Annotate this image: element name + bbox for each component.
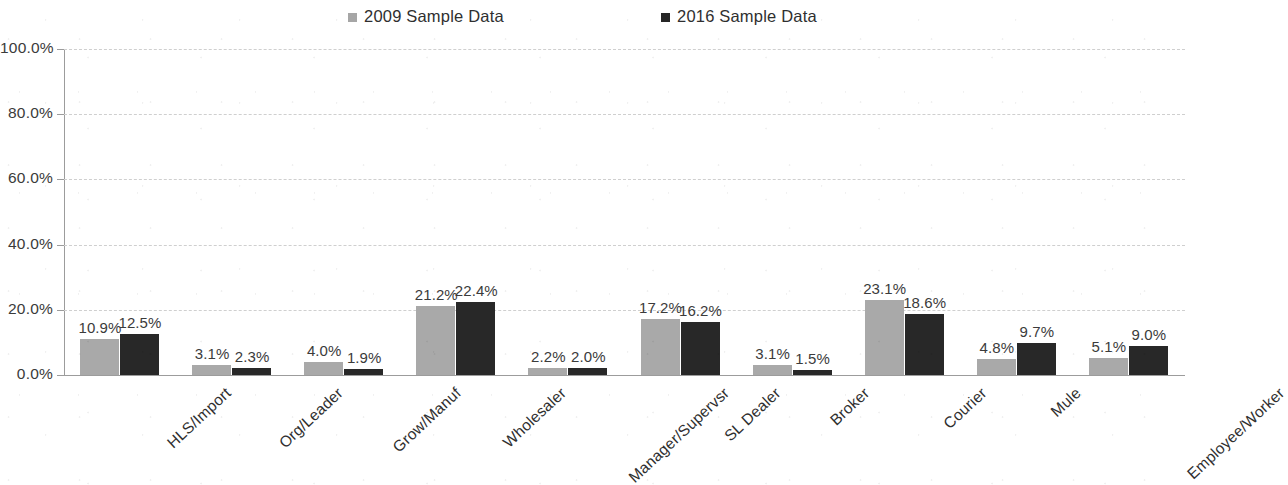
x-axis-category-label: Org/Leader xyxy=(275,384,346,452)
bar[interactable] xyxy=(528,368,567,375)
bar[interactable] xyxy=(1089,358,1128,375)
chart-legend: 2009 Sample Data 2016 Sample Data xyxy=(0,4,1190,30)
bar-value-label: 1.9% xyxy=(335,349,393,366)
x-axis-category-label: Courier xyxy=(940,384,990,433)
bar-group: 10.9%12.5% xyxy=(80,49,159,375)
bar-value-label: 18.6% xyxy=(896,294,954,311)
y-axis-tick-label: 60.0% xyxy=(0,169,53,187)
y-axis-tick-label: 80.0% xyxy=(0,104,53,122)
bar-value-label: 9.0% xyxy=(1120,326,1178,343)
bar-group: 21.2%22.4% xyxy=(416,49,495,375)
bar[interactable] xyxy=(416,306,455,375)
x-axis-category-label: SL Dealer xyxy=(721,384,785,445)
bar-value-label: 9.7% xyxy=(1008,323,1066,340)
bar[interactable] xyxy=(568,368,607,375)
bar[interactable] xyxy=(793,370,832,375)
x-axis-categories: HLS/ImportOrg/LeaderGrow/ManufWholesaler… xyxy=(64,376,1185,485)
bar-group: 3.1%2.3% xyxy=(192,49,271,375)
bar[interactable] xyxy=(456,302,495,375)
square-marker-icon xyxy=(348,13,357,22)
square-marker-icon xyxy=(661,13,670,22)
bar-value-label: 12.5% xyxy=(111,314,169,331)
legend-label: 2016 Sample Data xyxy=(677,7,817,26)
plot-bars: 10.9%12.5%3.1%2.3%4.0%1.9%21.2%22.4%2.2%… xyxy=(64,49,1185,375)
y-axis-tick-mark xyxy=(57,375,64,376)
bar[interactable] xyxy=(80,339,119,375)
bar-group: 4.0%1.9% xyxy=(304,49,383,375)
bar-group: 3.1%1.5% xyxy=(753,49,832,375)
x-axis-category-label: Wholesaler xyxy=(499,384,569,451)
bar[interactable] xyxy=(641,319,680,375)
bar[interactable] xyxy=(905,314,944,375)
bar-value-label: 2.3% xyxy=(223,348,281,365)
y-axis-tick-label: 40.0% xyxy=(0,235,53,253)
y-axis-tick-mark xyxy=(57,114,64,115)
bar-group: 2.2%2.0% xyxy=(528,49,607,375)
bar-value-label: 16.2% xyxy=(672,302,730,319)
bar[interactable] xyxy=(977,359,1016,375)
bar[interactable] xyxy=(1129,346,1168,375)
bar[interactable] xyxy=(1017,343,1056,375)
legend-item-2016-sample-data[interactable]: 2016 Sample Data xyxy=(661,7,817,26)
y-axis-tick-label: 0.0% xyxy=(0,365,53,383)
bar[interactable] xyxy=(232,368,271,375)
bar[interactable] xyxy=(192,365,231,375)
y-axis-tick-mark xyxy=(57,245,64,246)
bar[interactable] xyxy=(681,322,720,375)
bar-group: 5.1%9.0% xyxy=(1089,49,1168,375)
bar-group: 4.8%9.7% xyxy=(977,49,1056,375)
x-axis-category-label: Broker xyxy=(827,384,874,429)
x-axis-category-label: HLS/Import xyxy=(163,384,234,452)
bar-value-label: 22.4% xyxy=(447,282,505,299)
x-axis-category-label: Employee/Worker xyxy=(1184,384,1288,483)
bar-value-label: 2.0% xyxy=(559,348,617,365)
y-axis-tick-mark xyxy=(57,179,64,180)
y-axis-tick-mark xyxy=(57,49,64,50)
y-axis-tick-label: 100.0% xyxy=(0,39,53,57)
legend-label: 2009 Sample Data xyxy=(364,7,504,26)
bar-group: 23.1%18.6% xyxy=(865,49,944,375)
y-axis-tick-label: 20.0% xyxy=(0,300,53,318)
legend-item-2009-sample-data[interactable]: 2009 Sample Data xyxy=(348,7,504,26)
bar[interactable] xyxy=(344,369,383,375)
bar-group: 17.2%16.2% xyxy=(641,49,720,375)
x-axis-category-label: Manager/Supervsr xyxy=(625,384,733,485)
y-axis-tick-mark xyxy=(57,310,64,311)
x-axis-category-label: Mule xyxy=(1048,384,1085,421)
bar-value-label: 1.5% xyxy=(784,350,842,367)
bar[interactable] xyxy=(120,334,159,375)
x-axis-category-label: Grow/Manuf xyxy=(389,384,464,456)
